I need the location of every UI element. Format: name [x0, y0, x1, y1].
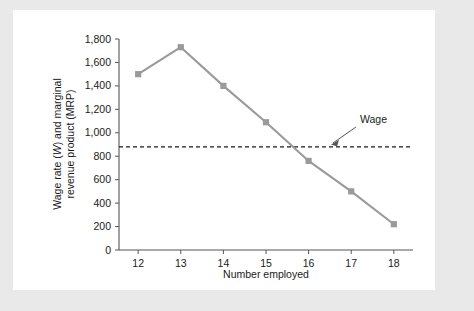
x-axis-ticks [138, 250, 394, 254]
x-tick-label: 13 [175, 257, 187, 269]
chart-figure: 02004006008001,0001,2001,4001,6001,800 1… [13, 10, 435, 290]
y-tick-label: 0 [105, 244, 111, 256]
wage-arrow-line [333, 127, 356, 143]
y-axis-title-seg-1: Wage rate ( [51, 155, 63, 210]
y-tick-label: 1,200 [85, 103, 111, 115]
y-axis-ticks [115, 39, 119, 250]
y-tick-label: 1,800 [85, 33, 111, 45]
svg-text:Wage rate (W) and marginal: Wage rate (W) and marginal [51, 78, 63, 210]
y-tick-label: 400 [93, 197, 111, 209]
y-axis-title-seg-2: ) and marginal [51, 78, 63, 145]
mrp-data-point [135, 71, 141, 77]
x-tick-label: 18 [388, 257, 400, 269]
x-axis-title: Number employed [223, 268, 309, 280]
mrp-data-point [220, 83, 226, 89]
y-tick-label: 600 [93, 173, 111, 185]
chart-svg: 02004006008001,0001,2001,4001,6001,800 1… [13, 10, 435, 290]
mrp-data-point [348, 188, 354, 194]
wage-arrow-head [331, 140, 339, 147]
wage-annotation: Wage [331, 113, 387, 147]
y-tick-label: 1,400 [85, 79, 111, 91]
mrp-data-point [306, 158, 312, 164]
wage-annotation-label: Wage [360, 113, 387, 125]
y-axis-title: Wage rate (W) and marginal revenue produ… [51, 78, 76, 210]
y-tick-label: 200 [93, 220, 111, 232]
y-axis-title-line-2: revenue product (MRP) [64, 89, 76, 198]
mrp-data-point [178, 44, 184, 50]
y-tick-label: 1,600 [85, 56, 111, 68]
mrp-data-point [263, 119, 269, 125]
x-tick-label: 12 [132, 257, 144, 269]
x-tick-label: 17 [345, 257, 357, 269]
mrp-data-point [391, 221, 397, 227]
y-tick-label: 1,000 [85, 126, 111, 138]
mrp-data-points [135, 44, 397, 227]
y-axis-tick-labels: 02004006008001,0001,2001,4001,6001,800 [85, 33, 111, 256]
chart-card: 02004006008001,0001,2001,4001,6001,800 1… [13, 10, 435, 290]
y-tick-label: 800 [93, 150, 111, 162]
mrp-line [138, 47, 394, 224]
